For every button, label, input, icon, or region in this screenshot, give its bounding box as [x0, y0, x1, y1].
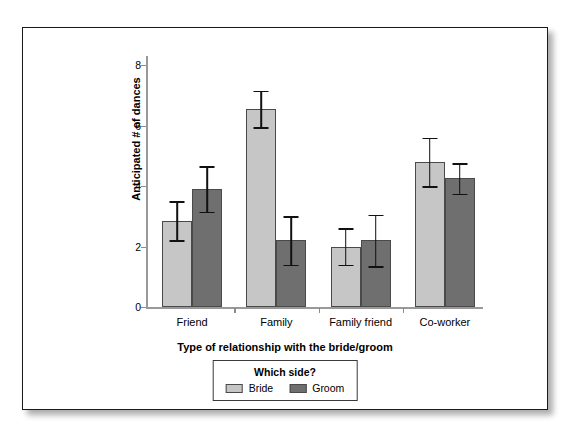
legend: Which side? BrideGroom [213, 360, 358, 401]
x-tick-label: Family [260, 316, 292, 328]
error-bar-stem [261, 91, 263, 127]
legend-item: Bride [226, 382, 274, 394]
error-bar-cap-upper [200, 166, 215, 168]
error-bar-stem [345, 228, 347, 264]
x-tick-label: Friend [177, 316, 208, 328]
error-bar-cap-lower [284, 265, 299, 267]
y-axis-title: Anticipated # of dances [130, 77, 142, 200]
error-bar-cap-lower [254, 127, 269, 129]
y-tick-mark [141, 65, 146, 66]
x-tick-mark [234, 308, 235, 313]
legend-swatch-bride [226, 384, 243, 393]
x-tick-mark [403, 308, 404, 313]
x-tick-label: Family friend [329, 316, 392, 328]
error-bar-stem [176, 201, 178, 240]
plot-area: 02468 FriendFamilyFamily friendCo-worker [146, 52, 483, 335]
error-bar-stem [429, 138, 431, 186]
error-bar-cap-lower [422, 186, 437, 188]
error-bar-cap-upper [284, 216, 299, 218]
error-bar-cap-lower [200, 212, 215, 214]
error-bar-cap-upper [422, 138, 437, 140]
y-tick-label: 8 [135, 59, 141, 71]
y-tick-label: 2 [135, 241, 141, 253]
error-bar-cap-lower [338, 265, 353, 267]
bar [246, 109, 276, 307]
bar [445, 178, 475, 307]
error-bar-cap-lower [452, 194, 467, 196]
y-tick-mark [141, 126, 146, 127]
y-axis-line [146, 56, 148, 308]
legend-label: Bride [249, 382, 274, 394]
error-bar-stem [459, 163, 461, 193]
error-bar-cap-upper [368, 215, 383, 217]
figure-frame: 02468 FriendFamilyFamily friendCo-worker… [22, 27, 548, 410]
legend-item: Groom [289, 382, 344, 394]
error-bar-cap-lower [368, 266, 383, 268]
error-bar-cap-lower [170, 240, 185, 242]
error-bar-stem [206, 166, 208, 211]
legend-swatch-groom [289, 384, 306, 393]
legend-title: Which side? [226, 366, 345, 378]
x-tick-mark [319, 308, 320, 313]
y-tick-label: 0 [135, 301, 141, 313]
error-bar-stem [291, 216, 293, 264]
legend-label: Groom [312, 382, 344, 394]
error-bar-cap-upper [338, 228, 353, 230]
y-tick-mark [141, 186, 146, 187]
error-bar-cap-upper [452, 163, 467, 165]
error-bar-stem [375, 215, 377, 266]
x-axis-line [146, 307, 483, 309]
y-tick-mark [141, 307, 146, 308]
error-bar-cap-upper [254, 91, 269, 93]
legend-items: BrideGroom [226, 382, 345, 394]
x-tick-label: Co-worker [420, 316, 471, 328]
error-bar-cap-upper [170, 201, 185, 203]
x-axis-title: Type of relationship with the bride/groo… [23, 341, 547, 353]
y-tick-mark [141, 247, 146, 248]
